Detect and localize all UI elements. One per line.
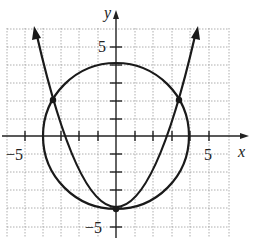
parabola-arrow-right [191,26,200,40]
y-axis-label: y [102,4,112,22]
intersection-point [50,97,56,103]
x-tick-label-neg5: −5 [6,146,23,163]
y-tick-label-5: 5 [98,38,106,55]
intersection-point [113,206,119,212]
x-tick-label-5: 5 [204,146,212,163]
intersection-point [176,97,182,103]
y-tick-label-neg5: −5 [85,219,102,236]
parabola-arrow-left [32,26,41,40]
graph: x y −5 5 5 −5 [0,0,253,238]
x-axis-label: x [237,143,245,160]
